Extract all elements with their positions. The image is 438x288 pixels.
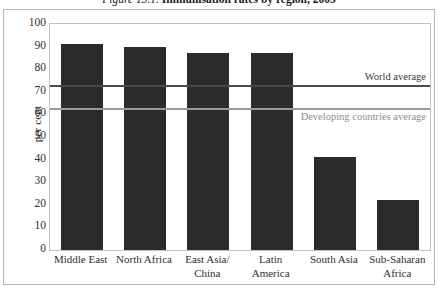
x-axis-labels: Middle EastNorth AfricaEast Asia/ChinaLa… — [49, 253, 431, 287]
figure-caption: Figure 13.1. Immunisation rates by regio… — [102, 0, 336, 5]
x-axis-label: LatinAmerica — [239, 253, 302, 281]
y-tick-label: 70 — [20, 85, 46, 97]
reference-line-label: World average — [365, 71, 426, 82]
plot-area: World averageDeveloping countries averag… — [49, 23, 431, 251]
x-axis-label-line2: America — [239, 267, 302, 281]
bar — [251, 53, 293, 250]
x-axis-label-line1: Latin — [259, 253, 282, 265]
y-tick-label: 100 — [20, 17, 46, 29]
y-tick-label: 60 — [20, 107, 46, 119]
y-axis-ticks: 1009080706050403020100 — [16, 19, 46, 251]
x-axis-label: East Asia/China — [176, 253, 239, 281]
x-axis-label-line2: China — [176, 267, 239, 281]
bar — [314, 157, 356, 250]
x-axis-label-line2: Africa — [366, 267, 429, 281]
x-axis-label-line1: Middle East — [54, 253, 107, 265]
bar — [61, 44, 103, 250]
x-axis-label-line1: East Asia/ — [185, 253, 229, 265]
y-tick-label: 90 — [20, 40, 46, 52]
figure-frame: per cent 1009080706050403020100 World av… — [3, 9, 435, 285]
y-tick-label: 80 — [20, 62, 46, 74]
y-tick-label: 30 — [20, 175, 46, 187]
x-axis-label-line1: Sub-Saharan — [369, 253, 425, 265]
x-axis-label-line1: North Africa — [116, 253, 172, 265]
x-axis-label: North Africa — [112, 253, 175, 267]
y-tick-label: 40 — [20, 153, 46, 165]
bar — [187, 53, 229, 250]
reference-line — [50, 85, 430, 87]
y-tick-label: 20 — [20, 198, 46, 210]
reference-line — [50, 108, 430, 110]
y-tick-label: 50 — [20, 130, 46, 142]
figure-title: Immunisation rates by region, 2005 — [162, 0, 336, 5]
y-tick-label: 10 — [20, 220, 46, 232]
y-tick-label: 0 — [20, 243, 46, 255]
bar — [377, 200, 419, 250]
bar — [124, 47, 166, 250]
x-axis-label: South Asia — [302, 253, 365, 267]
reference-line-label: Developing countries average — [301, 111, 426, 122]
figure-caption-strip: Figure 13.1. Immunisation rates by regio… — [0, 0, 438, 9]
x-axis-label: Sub-SaharanAfrica — [366, 253, 429, 281]
x-axis-label-line1: South Asia — [310, 253, 358, 265]
figure-container: Figure 13.1. Immunisation rates by regio… — [0, 0, 438, 288]
figure-number: Figure 13.1. — [102, 0, 159, 5]
x-axis-label: Middle East — [49, 253, 112, 267]
